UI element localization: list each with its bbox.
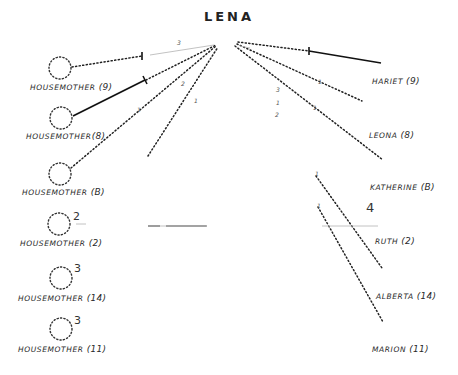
line-mark: 2 xyxy=(181,80,185,87)
edge-lena-center-a xyxy=(148,47,218,156)
node-name: KATHERINE xyxy=(370,183,418,192)
edge-lena-katherine xyxy=(235,46,383,160)
line-mark: 1 xyxy=(317,202,321,209)
node-name: HOUSEMOTHER xyxy=(26,132,92,141)
node-group: (14) xyxy=(87,293,107,303)
right-node-label: HARIET (9) xyxy=(372,76,420,86)
left-node-label: HOUSEMOTHER (B) xyxy=(22,187,105,197)
node-name: RUTH xyxy=(375,237,398,246)
right-node-label: MARION (11) xyxy=(372,344,429,354)
line-mark: 1 xyxy=(315,170,319,177)
node-circle-housemother-14 xyxy=(50,267,72,289)
node-name: HOUSEMOTHER xyxy=(18,345,84,354)
node-circle-housemother-11 xyxy=(50,318,72,340)
sociogram: LENA HOUSEMOTHER (9) HOUSEMOTHER(8) HOUS… xyxy=(0,0,458,375)
right-node-label: ALBERTA (14) xyxy=(376,291,436,301)
edge-lena-leona xyxy=(237,44,362,101)
node-group: (8) xyxy=(92,131,106,141)
node-circle-housemother-8 xyxy=(50,107,72,129)
right-node-label: KATHERINE (B) xyxy=(370,182,435,192)
node-name: MARION xyxy=(372,345,406,354)
node-name: HOUSEMOTHER xyxy=(20,239,86,248)
line-mark: 1 xyxy=(276,99,280,106)
edge-lena-housemother-9 xyxy=(72,56,142,67)
node-group: (2) xyxy=(401,236,415,246)
node-name: HOUSEMOTHER xyxy=(30,83,96,92)
node-name: HOUSEMOTHER xyxy=(22,188,88,197)
line-mark: 2 xyxy=(275,111,279,118)
node-number: 3 xyxy=(74,262,81,275)
left-node-label: HOUSEMOTHER (14) xyxy=(18,293,106,303)
line-mark: 1 xyxy=(318,78,322,85)
right-node-label: LEONA (8) xyxy=(369,130,414,140)
node-name: LEONA xyxy=(369,131,398,140)
node-name: HARIET xyxy=(372,77,403,86)
node-group: (11) xyxy=(409,344,429,354)
edge-hariet-solid xyxy=(309,51,381,63)
node-name: ALBERTA xyxy=(376,292,414,301)
node-group: (9) xyxy=(406,76,420,86)
node-group: (B) xyxy=(421,182,435,192)
node-group: (11) xyxy=(87,344,107,354)
line-mark: 3 xyxy=(276,86,280,93)
node-group: (B) xyxy=(91,187,105,197)
node-circle-housemother-2 xyxy=(48,213,70,235)
line-mark: 1 xyxy=(137,106,141,113)
node-group: (14) xyxy=(417,291,437,301)
node-number: 2 xyxy=(73,210,80,223)
left-node-label: HOUSEMOTHER(8) xyxy=(26,131,105,141)
node-group: (2) xyxy=(89,238,103,248)
line-mark: 1 xyxy=(194,97,198,104)
left-node-label: HOUSEMOTHER (9) xyxy=(30,82,112,92)
left-node-label: HOUSEMOTHER (2) xyxy=(20,238,102,248)
node-name: HOUSEMOTHER xyxy=(18,294,84,303)
edge-lena-hariet-dotted xyxy=(238,42,309,51)
right-node-label: RUTH (2) xyxy=(375,236,415,246)
line-mark: 1 xyxy=(313,104,317,111)
node-number: 3 xyxy=(74,314,81,327)
line-mark-large: 4 xyxy=(366,200,374,215)
node-circle-housemother-b xyxy=(49,163,71,185)
node-circle-housemother-9 xyxy=(49,57,71,79)
node-group: (8) xyxy=(401,130,415,140)
diagram-title: LENA xyxy=(0,9,458,24)
line-mark: 3 xyxy=(177,39,181,46)
node-group: (9) xyxy=(99,82,113,92)
left-node-label: HOUSEMOTHER (11) xyxy=(18,344,106,354)
